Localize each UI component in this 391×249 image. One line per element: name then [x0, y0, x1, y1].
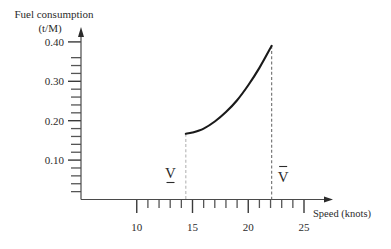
- chart-canvas: Fuel consumption (t/M) 0.100.200.300.40 …: [0, 0, 391, 249]
- y-tick-label: 0.10: [45, 154, 65, 166]
- y-axis-ticks: 0.100.200.300.40: [45, 36, 81, 192]
- y-tick-label: 0.20: [45, 115, 65, 127]
- x-tick-label: 20: [243, 221, 255, 233]
- speed-bound-guides: VV: [165, 46, 289, 200]
- x-tick-label: 15: [187, 221, 199, 233]
- x-axis-arrow-icon: [324, 197, 333, 203]
- max-speed-label: V: [278, 169, 289, 185]
- min-speed-label: V: [165, 165, 176, 181]
- y-axis-unit: (t/M): [38, 22, 62, 35]
- y-tick-label: 0.40: [45, 36, 65, 48]
- x-tick-label: 10: [131, 221, 143, 233]
- fuel-consumption-curve: [186, 46, 272, 134]
- fuel-consumption-chart: Fuel consumption (t/M) 0.100.200.300.40 …: [0, 0, 391, 249]
- y-tick-label: 0.30: [45, 75, 65, 87]
- x-axis-ticks: 10152025: [131, 200, 310, 234]
- y-axis-arrow-icon: [78, 27, 84, 37]
- x-tick-label: 25: [299, 221, 311, 233]
- y-axis-title: Fuel consumption: [14, 8, 94, 20]
- x-axis-title: Speed (knots): [313, 208, 372, 220]
